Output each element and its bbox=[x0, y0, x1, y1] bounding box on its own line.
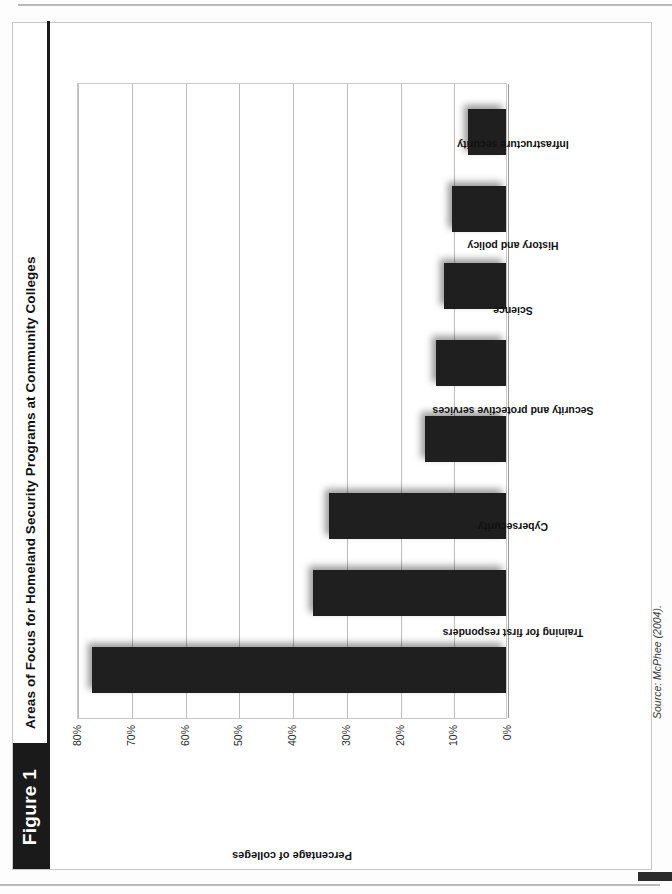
x-axis-label: Training for first responders bbox=[443, 547, 584, 639]
x-axis-label: Security and protective services bbox=[432, 326, 593, 418]
y-tick-label: 80% bbox=[71, 725, 83, 777]
figure-number-badge: Figure 1 bbox=[13, 743, 47, 869]
bar-slot bbox=[78, 94, 506, 171]
y-axis-title-text: Percentage of colleges bbox=[232, 850, 352, 862]
y-tick-label: 0% bbox=[501, 725, 513, 777]
y-axis-title: Percentage of colleges bbox=[77, 843, 507, 869]
figure-title: Areas of Focus for Homeland Security Pro… bbox=[13, 256, 47, 743]
header-underline bbox=[47, 21, 50, 869]
y-tick-label: 30% bbox=[340, 725, 352, 777]
y-tick-label: 40% bbox=[286, 725, 298, 777]
chart-area: Percentage of colleges 0%10%20%30%40%50%… bbox=[51, 21, 607, 869]
rotated-figure-container: Figure 1 Areas of Focus for Homeland Sec… bbox=[0, 0, 672, 894]
x-axis-label: History and policy bbox=[467, 160, 558, 252]
y-tick-label: 70% bbox=[125, 725, 137, 777]
bar-training-for-first-responders[interactable] bbox=[92, 647, 506, 693]
figure-card: Figure 1 Areas of Focus for Homeland Sec… bbox=[12, 22, 652, 870]
x-axis-category-labels: Training for first respondersCybersecuri… bbox=[509, 83, 605, 719]
y-tick-label: 20% bbox=[394, 725, 406, 777]
y-tick-label: 50% bbox=[232, 725, 244, 777]
bar-slot bbox=[78, 631, 506, 708]
figure-header: Figure 1 Areas of Focus for Homeland Sec… bbox=[13, 21, 47, 869]
bar-slot bbox=[78, 478, 506, 555]
bar-slot bbox=[78, 171, 506, 248]
y-axis-tick-labels: 0%10%20%30%40%50%60%70%80% bbox=[77, 725, 507, 777]
x-axis-label: Cybersecurity bbox=[478, 441, 548, 533]
bar-slot bbox=[78, 248, 506, 325]
figure-source-note: Source: McPhee (2004). bbox=[651, 605, 663, 719]
x-label-slot: Training for first responders bbox=[509, 568, 605, 709]
x-axis-label: Infrastructure security bbox=[457, 59, 568, 151]
scanned-page: Figure 1 Areas of Focus for Homeland Sec… bbox=[0, 0, 672, 894]
y-tick-label: 10% bbox=[447, 725, 459, 777]
y-tick-label: 60% bbox=[179, 725, 191, 777]
